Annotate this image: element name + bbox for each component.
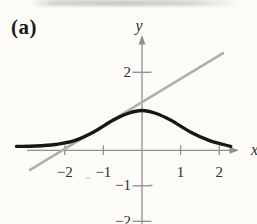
figure-panel: (a) yx−2−1122−1−2 (0, 0, 257, 224)
x-axis-label: x (250, 141, 257, 158)
bell-shaped-curve (17, 111, 231, 147)
graph-plot: yx−2−1122−1−2 (0, 0, 257, 224)
x-tick-label: −2 (57, 164, 73, 180)
y-axis-arrowhead (139, 35, 146, 45)
y-axis-label: y (133, 17, 143, 35)
y-tick-label: −1 (115, 177, 131, 193)
y-tick-label: −2 (115, 213, 131, 224)
y-tick-label: 2 (124, 64, 132, 80)
x-tick-label: 1 (177, 164, 185, 180)
x-tick-label: 2 (215, 164, 223, 180)
x-tick-label: −1 (95, 164, 111, 180)
